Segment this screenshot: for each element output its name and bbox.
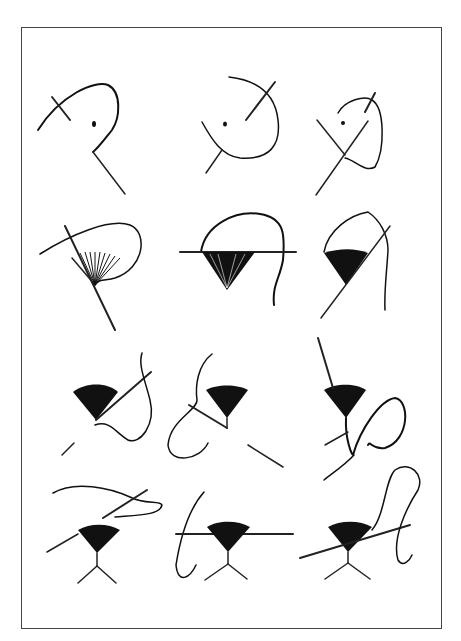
stitch-diagram: [0, 0, 461, 641]
panel-1-2: [202, 77, 278, 173]
panel-3-2: [168, 354, 283, 467]
panel-2-2: [180, 213, 296, 305]
panel-1-3: [316, 93, 382, 195]
panel-4-1: [47, 486, 162, 583]
panel-3-3: [318, 338, 405, 480]
panel-4-2: [176, 492, 293, 580]
panel-2-3: [321, 212, 390, 318]
panel-2-1: [40, 223, 141, 330]
panel-3-1: [62, 353, 151, 455]
panel-4-3: [300, 467, 420, 579]
panel-1-1: [38, 84, 125, 194]
